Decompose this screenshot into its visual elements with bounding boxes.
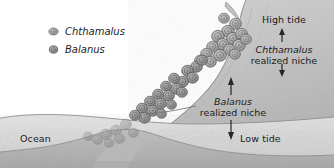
legend-label-chthamalus: Chthamalus — [65, 26, 125, 37]
low-tide-label: Low tide — [240, 133, 281, 144]
bottom-band — [0, 161, 334, 168]
balanus-niche-line-1: Balanus — [196, 96, 270, 107]
chthamalus-niche-line-2: realized niche — [248, 55, 320, 66]
legend-item-balanus: Balanus — [48, 44, 105, 55]
balanus-niche-line-2: realized niche — [196, 107, 270, 118]
figure-canvas: Chthamalus Balanus High tide Chthamalus … — [0, 0, 334, 168]
chthamalus-niche-line-1: Chthamalus — [248, 44, 320, 55]
balanus-realized-niche-label: Balanus realized niche — [196, 96, 270, 118]
barnacle-round-icon — [48, 45, 59, 54]
legend-item-chthamalus: Chthamalus — [48, 26, 125, 37]
legend-label-balanus: Balanus — [65, 44, 105, 55]
barnacle-oval-icon — [48, 27, 59, 36]
ocean-label: Ocean — [20, 133, 51, 144]
high-tide-label: High tide — [262, 14, 306, 25]
chthamalus-realized-niche-label: Chthamalus realized niche — [248, 44, 320, 66]
